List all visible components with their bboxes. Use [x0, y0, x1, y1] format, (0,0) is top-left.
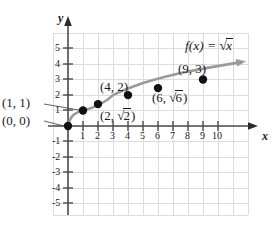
y-tick-label-neg4: -4: [52, 183, 60, 193]
y-tick-label-neg5: -5: [52, 198, 60, 208]
y-axis-arrowhead: [64, 16, 72, 26]
y-tick-label-2: 2: [55, 90, 60, 100]
point-label-2-radicand: 2: [123, 108, 131, 122]
point-label-6-prefix: (6,: [152, 90, 169, 105]
y-tick-label-4: 4: [55, 59, 60, 69]
x-axis-label: x: [262, 130, 268, 142]
x-tick-label-2: 2: [95, 131, 100, 141]
point-label-2-sqrt2: (2, √2): [100, 108, 135, 122]
grid-lines: [53, 33, 248, 215]
point-label-6-radicand: 6: [175, 90, 183, 104]
point-label-9-3: (9, 3): [178, 62, 206, 75]
y-tick-label-3: 3: [55, 74, 60, 84]
x-tick-label-3: 3: [110, 131, 115, 141]
y-tick-label-neg3: -3: [52, 167, 60, 177]
x-tick-label-4: 4: [125, 131, 130, 141]
y-tick-label-5: 5: [55, 43, 60, 53]
point-label-6-sqrt6: (6, √6): [152, 90, 187, 104]
point-label-2-prefix: (2,: [100, 108, 117, 123]
x-tick-label-7: 7: [170, 131, 175, 141]
data-point-1-1: [79, 106, 87, 114]
function-label: f(x) = √x: [185, 38, 233, 53]
graph-canvas: [0, 0, 280, 232]
x-tick-label-5: 5: [140, 131, 145, 141]
function-label-radicand: x: [226, 38, 233, 53]
leader-line-1-1: [44, 104, 79, 110]
x-axis-arrowhead: [248, 122, 258, 130]
x-tick-label-1: 1: [80, 131, 85, 141]
y-tick-label-1: 1: [55, 105, 60, 115]
point-label-4-2: (4, 2): [100, 80, 128, 93]
curve-arrowhead: [236, 59, 246, 66]
x-tick-label-9: 9: [200, 131, 205, 141]
point-label-6-suffix: ): [183, 90, 187, 105]
data-point-9-3: [199, 75, 207, 83]
data-point-0-0: [64, 122, 72, 130]
x-tick-label-8: 8: [185, 131, 190, 141]
point-label-2-suffix: ): [131, 108, 135, 123]
y-axis-label: y: [58, 12, 63, 24]
point-label-1-1: (1, 1): [2, 96, 30, 109]
y-tick-label-neg1: -1: [52, 136, 60, 146]
graph-figure: y x 1 2 3 4 5 6 7 8 9 10 5 4 3 2 1 -1 -2…: [0, 0, 280, 232]
x-tick-label-6: 6: [155, 131, 160, 141]
x-tick-label-10: 10: [212, 131, 222, 141]
point-label-0-0: (0, 0): [2, 114, 30, 127]
y-tick-label-neg2: -2: [52, 152, 60, 162]
function-label-prefix: f(x) =: [185, 38, 220, 53]
